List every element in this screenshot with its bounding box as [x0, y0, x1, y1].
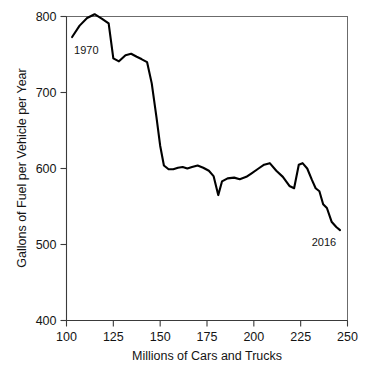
- x-tick-label-100: 100: [56, 330, 77, 344]
- fuel-use-line-chart: 400500600700800 100125150175200225250 19…: [0, 0, 372, 378]
- annotation-1970: 1970: [74, 44, 98, 56]
- y-tick-label-500: 500: [36, 238, 57, 252]
- y-axis-label: Gallons of Fuel per Vehicle per Year: [15, 68, 29, 267]
- x-tick-label-250: 250: [337, 330, 358, 344]
- x-tick-label-225: 225: [290, 330, 311, 344]
- x-tick-label-175: 175: [197, 330, 218, 344]
- y-tick-label-600: 600: [36, 162, 57, 176]
- x-tick-label-125: 125: [103, 330, 124, 344]
- x-axis-label: Millions of Cars and Trucks: [132, 349, 282, 363]
- y-tick-label-700: 700: [36, 86, 57, 100]
- chart-svg: 400500600700800 100125150175200225250 19…: [0, 0, 372, 378]
- y-tick-label-800: 800: [36, 10, 57, 24]
- annotation-2016: 2016: [312, 236, 336, 248]
- x-tick-label-200: 200: [243, 330, 264, 344]
- x-tick-label-150: 150: [150, 330, 171, 344]
- y-tick-label-400: 400: [36, 314, 57, 328]
